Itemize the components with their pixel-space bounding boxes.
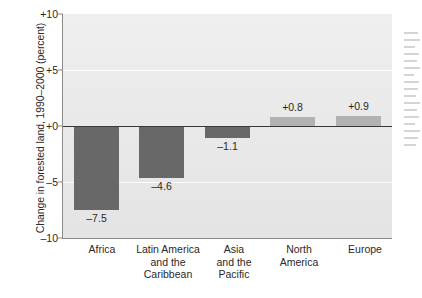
x-label-north-america-line-2: America — [260, 256, 338, 269]
bar-latin-america-and-the-caribbean — [139, 126, 184, 178]
x-label-europe-line-1: Europe — [326, 243, 404, 256]
plot-area: –7.5 –4.6 –1.1 +0.8 +0.9 — [63, 14, 392, 238]
bar-north-america — [270, 117, 315, 126]
bar-africa — [74, 126, 119, 210]
bar-value-latin-america-and-the-caribbean: –4.6 — [134, 180, 189, 192]
y-tick-label-5: +5 — [20, 64, 58, 76]
y-axis-tick-labels: +10 +5 +0 –5 –10 — [18, 0, 58, 298]
gridline-5 — [63, 70, 392, 71]
bar-value-north-america: +0.8 — [265, 101, 320, 113]
bar-europe — [336, 116, 381, 126]
y-tick-label-0: +0 — [20, 120, 58, 132]
bar-value-africa: –7.5 — [69, 212, 124, 224]
y-tick-label-neg10: –10 — [20, 232, 58, 244]
y-tick-label-neg5: –5 — [20, 176, 58, 188]
bar-chart-figure: Change in forested land, 1990–2000 (perc… — [0, 0, 422, 298]
x-axis-category-labels: Africa Latin America and the Caribbean A… — [63, 243, 392, 295]
bar-asia-and-the-pacific — [205, 126, 250, 138]
bar-value-asia-and-the-pacific: –1.1 — [200, 140, 255, 152]
x-axis-line — [62, 238, 392, 239]
x-label-europe: Europe — [326, 243, 404, 256]
bar-value-europe: +0.9 — [331, 100, 386, 112]
y-tick-label-10: +10 — [20, 8, 58, 20]
adjacent-column-text-sliver — [404, 32, 422, 180]
x-label-asia-line-3: Pacific — [195, 268, 273, 281]
zero-baseline — [63, 126, 392, 127]
